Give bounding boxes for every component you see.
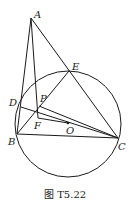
segment-ab	[17, 18, 31, 134]
segment-af	[31, 18, 38, 118]
figure-caption: 图 T5.22	[44, 189, 86, 200]
label-d: D	[8, 97, 17, 108]
label-f: F	[33, 120, 42, 131]
geometry-figure: A E D P F O B C 图 T5.22	[0, 0, 136, 206]
label-p: P	[39, 93, 47, 104]
point-o	[67, 122, 70, 125]
label-a: A	[33, 9, 41, 20]
label-c: C	[118, 141, 126, 152]
label-e: E	[71, 61, 80, 72]
label-b: B	[7, 136, 15, 147]
label-o: O	[66, 125, 74, 136]
